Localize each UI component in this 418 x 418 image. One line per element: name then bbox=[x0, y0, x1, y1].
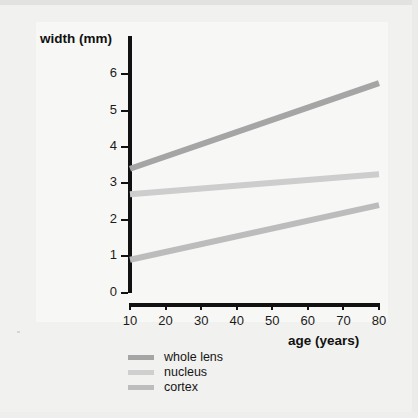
legend-item[interactable]: cortex bbox=[128, 380, 223, 394]
chart-legend: whole lensnucleuscortex bbox=[128, 350, 223, 395]
legend-item-label: cortex bbox=[164, 380, 198, 394]
legend-item-label: nucleus bbox=[164, 365, 207, 379]
legend-swatch-icon bbox=[128, 385, 154, 390]
legend-swatch-icon bbox=[128, 370, 154, 375]
chart-page: width (mm) age (years) 0123456 102030405… bbox=[0, 0, 418, 418]
legend-item[interactable]: nucleus bbox=[128, 365, 223, 379]
data-line-whole-lens bbox=[130, 83, 379, 169]
legend-swatch-icon bbox=[128, 355, 154, 360]
legend-item[interactable]: whole lens bbox=[128, 350, 223, 364]
data-line-nucleus bbox=[130, 174, 379, 194]
legend-item-label: whole lens bbox=[164, 350, 223, 364]
data-line-cortex bbox=[130, 205, 379, 260]
